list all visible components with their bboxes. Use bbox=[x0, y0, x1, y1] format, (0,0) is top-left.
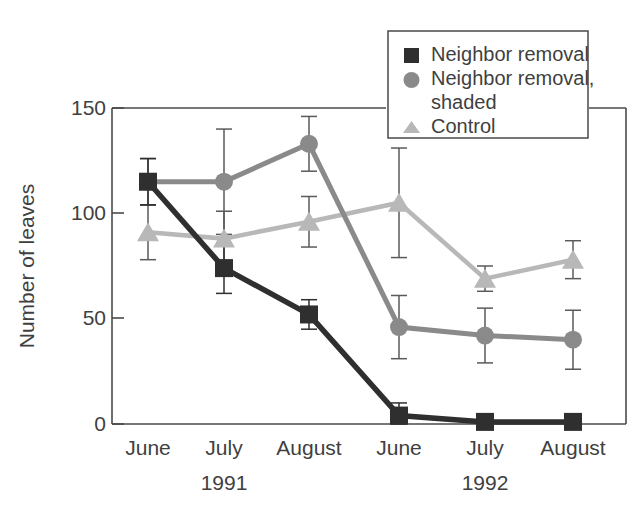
circle-marker-icon bbox=[404, 72, 420, 88]
legend-label-neighbor-removal-shaded-line2: shaded bbox=[431, 91, 497, 113]
y-tick-label-150: 150 bbox=[71, 96, 106, 119]
legend-label-neighbor-removal-shaded: Neighbor removal, bbox=[431, 67, 594, 89]
x-tick-label-july-1991: July bbox=[205, 436, 243, 459]
legend: Neighbor removal Neighbor removal, shade… bbox=[388, 31, 594, 138]
x-group-label-1992: 1992 bbox=[462, 471, 509, 494]
y-tick-label-100: 100 bbox=[71, 201, 106, 224]
series-line bbox=[148, 203, 573, 279]
square-marker bbox=[390, 407, 408, 425]
x-group-label-1991: 1991 bbox=[201, 471, 248, 494]
y-tick-label-50: 50 bbox=[83, 306, 106, 329]
square-marker bbox=[564, 413, 582, 431]
series-triangle bbox=[137, 193, 584, 288]
square-marker-icon bbox=[404, 48, 419, 63]
legend-label-neighbor-removal: Neighbor removal bbox=[431, 43, 589, 65]
x-tick-label-july-1992: July bbox=[466, 436, 504, 459]
chart-svg: 150 100 50 0 Number of leaves June July … bbox=[0, 0, 640, 510]
circle-marker bbox=[300, 135, 318, 153]
legend-label-control: Control bbox=[431, 115, 495, 137]
square-marker bbox=[300, 305, 318, 323]
data-series-layer bbox=[137, 116, 584, 430]
x-tick-label-august-1991: August bbox=[276, 436, 342, 459]
x-axis-labels: June July August June July August bbox=[125, 436, 606, 459]
y-axis-title: Number of leaves bbox=[15, 184, 38, 349]
circle-marker bbox=[564, 331, 582, 349]
circle-marker bbox=[476, 327, 494, 345]
x-tick-label-august-1992: August bbox=[540, 436, 606, 459]
errorbars-circle bbox=[140, 116, 581, 369]
series-line bbox=[148, 182, 573, 422]
series-line bbox=[148, 144, 573, 340]
chart-figure: 150 100 50 0 Number of leaves June July … bbox=[0, 0, 640, 510]
y-axis-ticks: 150 100 50 0 bbox=[71, 96, 124, 435]
circle-marker bbox=[215, 173, 233, 191]
x-axis-group-labels: 1991 1992 bbox=[201, 471, 509, 494]
errorbars-square bbox=[140, 159, 581, 424]
y-tick-label-0: 0 bbox=[94, 412, 106, 435]
square-marker bbox=[139, 173, 157, 191]
x-tick-label-june-1992: June bbox=[376, 436, 422, 459]
errorbars-triangle bbox=[140, 148, 581, 291]
circle-marker bbox=[390, 318, 408, 336]
square-marker bbox=[476, 413, 494, 431]
square-marker bbox=[215, 259, 233, 277]
x-tick-label-june-1991: June bbox=[125, 436, 171, 459]
series-circle bbox=[139, 135, 582, 349]
